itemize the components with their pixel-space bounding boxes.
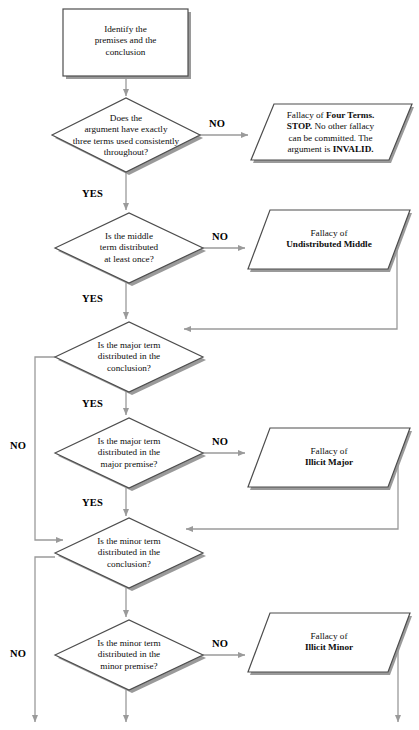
shape-f3 [248,428,410,487]
edge-label-d6-no: NO [212,638,228,649]
edge-label-d4-no: NO [212,436,228,447]
shape-d5 [55,518,203,588]
edge-label-d3-no: NO [10,440,26,451]
edge-d3-no-to-d5 [35,357,63,540]
edge-label-d2-no: NO [212,231,228,242]
edge-label-d1-yes: YES [82,188,103,199]
edge-label-d5-no: NO [10,648,26,659]
edge-label-d2-yes: YES [82,293,103,304]
shape-f4 [248,613,410,672]
shape-d1 [52,98,200,172]
shape-d3 [55,322,203,392]
edge-label-d4-yes: YES [82,497,103,508]
edge-label-d3-yes: YES [82,398,103,409]
shape-d4 [55,418,203,488]
flowchart-canvas: Identify the premises and the conclusion… [0,0,419,730]
shape-d6 [55,620,203,690]
shape-f2 [248,210,410,269]
shape-outlines [52,9,412,690]
edge-label-d1-no: NO [209,118,225,129]
flowchart-connectors [0,0,419,730]
shape-f1 [251,104,412,160]
edge-d5-no-down [35,557,55,722]
shape-start [63,9,188,76]
shape-d2 [55,213,203,283]
